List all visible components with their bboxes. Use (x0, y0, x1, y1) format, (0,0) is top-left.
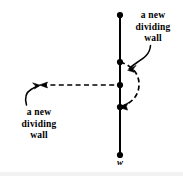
annotation-right-line-1: a new (127, 10, 179, 22)
left-annotation-leader (26, 86, 39, 105)
dividing-wall-diagram: a new dividing wall a new dividing wall … (0, 0, 183, 176)
dashed-horizontal-wall-arrowhead (40, 82, 48, 88)
annotation-left: a new dividing wall (4, 107, 74, 142)
annotation-right: a new dividing wall (127, 10, 179, 45)
right-annotation-leader (129, 46, 150, 69)
annotation-right-line-2: dividing (127, 22, 179, 34)
annotation-right-line-3: wall (127, 33, 179, 45)
wall-label: w (110, 157, 130, 167)
annotation-left-line-2: dividing (4, 119, 74, 131)
annotation-left-line-1: a new (4, 107, 74, 119)
bottom-edge-band (0, 172, 183, 176)
annotation-left-line-3: wall (4, 130, 74, 142)
wall-node-top (117, 12, 123, 18)
